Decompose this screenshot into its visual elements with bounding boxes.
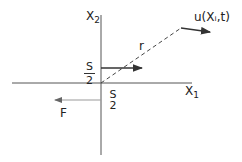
- x2-axis-label: X2: [86, 10, 100, 25]
- force-label: F: [60, 107, 67, 119]
- radius-line: [101, 28, 181, 83]
- x1-axis-label: X1: [185, 85, 199, 100]
- diagram-canvas: [0, 0, 242, 162]
- lower-surface-fraction: S2: [108, 89, 118, 111]
- displacement-arrow: [181, 28, 210, 32]
- radius-label: r: [139, 40, 144, 52]
- displacement-label: u(Xᵢ,t): [194, 11, 230, 23]
- upper-surface-fraction: S2: [84, 61, 95, 86]
